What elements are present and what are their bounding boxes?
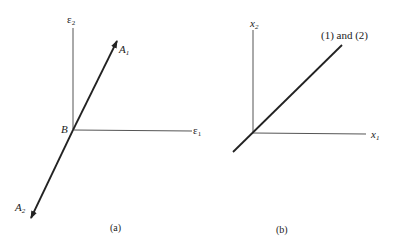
epsilon1-axis (73, 130, 192, 131)
a1-subscript: 1 (126, 49, 130, 57)
epsilon2-subscript: 2 (72, 19, 76, 27)
epsilon2-label: ε2 (67, 14, 75, 25)
a1-symbol: A (119, 43, 126, 55)
line-1-and-2 (233, 45, 342, 152)
caption-b: (b) (276, 225, 288, 235)
panel-b-graphics (233, 30, 366, 152)
vector-a2 (31, 130, 73, 218)
epsilon2-symbol: ε (67, 13, 72, 25)
line-1-and-2-label: (1) and (2) (321, 30, 368, 41)
x1-axis (253, 133, 366, 134)
epsilon1-label: ε1 (193, 125, 201, 136)
caption-a: (a) (110, 223, 121, 233)
x2-subscript: 2 (255, 23, 259, 31)
x2-label: x2 (250, 18, 258, 29)
a1-label: A1 (119, 44, 129, 55)
vector-a1 (73, 41, 117, 130)
epsilon1-symbol: ε (193, 124, 198, 136)
panel-a-graphics (31, 28, 192, 218)
origin-b-label: B (61, 124, 68, 135)
a2-symbol: A (15, 201, 22, 213)
a2-subscript: 2 (22, 207, 26, 215)
x1-label: x1 (371, 129, 379, 140)
a2-label: A2 (15, 202, 25, 213)
epsilon1-subscript: 1 (198, 130, 202, 138)
x1-subscript: 1 (376, 134, 380, 142)
